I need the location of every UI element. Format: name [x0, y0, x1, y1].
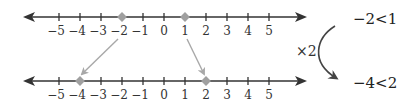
- svg-text:1: 1: [181, 88, 189, 102]
- mapping-arrows: [82, 39, 204, 74]
- svg-text:2: 2: [202, 24, 210, 38]
- svg-text:−2: −2: [110, 88, 128, 102]
- curved-arrow-icon: [319, 26, 336, 78]
- top-number-line: −5 −4 −3 −2 −1 0 1 2 3 4 5: [23, 12, 307, 38]
- point-minus-4: [75, 76, 85, 86]
- svg-text:−4: −4: [68, 24, 86, 38]
- bottom-number-line: −5 −4 −3 −2 −1 0 1 2 3 4 5: [23, 76, 307, 102]
- svg-text:5: 5: [265, 24, 273, 38]
- svg-text:−4: −4: [68, 88, 86, 102]
- top-tick-labels: −5 −4 −3 −2 −1 0 1 2 3 4 5: [47, 24, 273, 38]
- arrow-minus2-to-minus4: [82, 39, 118, 74]
- svg-text:4: 4: [244, 24, 252, 38]
- bottom-tick-labels: −5 −4 −3 −2 −1 0 1 2 3 4 5: [47, 88, 273, 102]
- point-2: [201, 76, 211, 86]
- svg-text:−5: −5: [47, 24, 65, 38]
- svg-text:0: 0: [160, 24, 168, 38]
- svg-text:0: 0: [160, 88, 168, 102]
- svg-text:1: 1: [181, 24, 189, 38]
- svg-text:−1: −1: [131, 24, 149, 38]
- svg-text:−3: −3: [89, 88, 107, 102]
- svg-text:−2: −2: [110, 24, 128, 38]
- arrow-1-to-2: [187, 39, 204, 74]
- point-1: [180, 12, 190, 22]
- number-line-diagram: −5 −4 −3 −2 −1 0 1 2 3 4 5: [0, 0, 418, 105]
- point-minus-2: [117, 12, 127, 22]
- svg-text:5: 5: [265, 88, 273, 102]
- svg-text:3: 3: [223, 88, 231, 102]
- svg-text:2: 2: [202, 88, 210, 102]
- svg-text:−3: −3: [89, 24, 107, 38]
- inequality-top: −2<1: [353, 10, 397, 28]
- inequality-bottom: −4<2: [353, 74, 397, 92]
- svg-text:−1: −1: [131, 88, 149, 102]
- operation-label: ×2: [296, 43, 317, 59]
- svg-text:4: 4: [244, 88, 252, 102]
- svg-text:−5: −5: [47, 88, 65, 102]
- svg-text:3: 3: [223, 24, 231, 38]
